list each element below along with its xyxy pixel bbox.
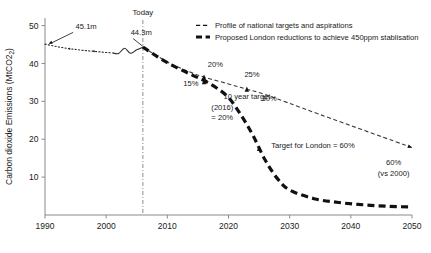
y-axis-title: Carbon dioxide Emissions (MtCO22) — [4, 48, 15, 185]
annotation-end-60-percent: 60% — [386, 158, 401, 167]
legend-label-0: Profile of national targets and aspirati… — [215, 21, 353, 30]
leader-45-1m — [51, 32, 74, 43]
y-tick-label: 40 — [29, 59, 39, 69]
historical-point — [93, 50, 95, 52]
y-tick-label: 50 — [29, 21, 39, 31]
y-tick-label: 20 — [29, 134, 39, 144]
annotation-20-percent: 20% — [208, 60, 223, 69]
series-dotted — [45, 44, 112, 53]
leader-44-3m — [133, 39, 143, 47]
annotation-ten-year-target-line3: = 20% — [211, 113, 233, 122]
annotation-ten-year-target-line1: 10 year target — [224, 92, 272, 101]
annotations-group: 45.1m44.3m15%20%25%30%10 year target(201… — [76, 22, 410, 178]
annotation-2006-value: 44.3m — [131, 28, 152, 37]
today-label: Today — [132, 8, 153, 17]
historical-point — [68, 48, 70, 50]
x-tick-label: 2050 — [403, 221, 422, 231]
y-tick-label: 30 — [29, 96, 39, 106]
annotation-target-for-london: Target for London = 60% — [271, 141, 355, 150]
axes-group: 10203040501990200020102020203020402050 — [29, 18, 422, 231]
x-tick-label: 2030 — [280, 221, 299, 231]
annotation-end-vs-2000: (vs 2000) — [378, 169, 410, 178]
chart-canvas: 10203040501990200020102020203020402050 T… — [0, 0, 431, 253]
x-tick-label: 2020 — [219, 221, 238, 231]
annotation-ten-year-target-line2: (2016) — [211, 103, 233, 112]
leader-lines-group — [49, 32, 143, 46]
legend-label-1: Proposed London reductions to achieve 45… — [215, 33, 418, 42]
series-solid — [112, 47, 143, 54]
series-thin-dashed — [143, 47, 412, 147]
emissions-chart: 10203040501990200020102020203020402050 T… — [0, 0, 431, 253]
series-thick-dashed — [143, 47, 412, 207]
x-tick-label: 2040 — [341, 221, 360, 231]
annotation-25-percent: 25% — [244, 70, 259, 79]
chart-legend: Profile of national targets and aspirati… — [196, 21, 418, 42]
annotation-1990-value: 45.1m — [76, 22, 97, 31]
plot-area: 10203040501990200020102020203020402050 T… — [4, 8, 422, 231]
y-axis-title-group: Carbon dioxide Emissions (MtCO22) — [4, 48, 15, 185]
x-tick-label: 2000 — [97, 221, 116, 231]
x-tick-label: 2010 — [158, 221, 177, 231]
national-line-end-arrow — [407, 144, 412, 148]
y-tick-label: 10 — [29, 172, 39, 182]
today-marker-group: Today — [132, 8, 153, 216]
x-tick-label: 1990 — [36, 221, 55, 231]
series-group — [45, 44, 412, 207]
annotation-15-percent: 15% — [183, 79, 198, 88]
